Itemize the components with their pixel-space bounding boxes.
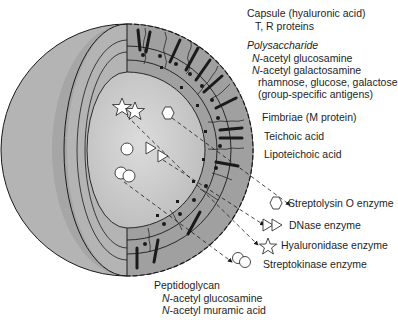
hexagon-icon — [162, 107, 174, 119]
triangles-icon — [263, 219, 273, 231]
label-enzyme-streptolysin: Streptolysin O enzyme — [288, 197, 394, 209]
label-lipoteichoic: Lipoteichoic acid — [264, 148, 342, 160]
label-poly-n-glucosamine: N-acetyl glucosamine — [252, 52, 352, 64]
triangles-icon — [272, 219, 282, 231]
italic-n: N — [162, 292, 170, 304]
circle-icon — [121, 143, 133, 155]
label-enzyme-dnase: DNase enzyme — [289, 219, 361, 231]
text: -acetyl glucosamine — [170, 292, 263, 304]
label-poly-n-galactosamine: N-acetyl galactosamine — [252, 64, 361, 76]
italic-n: N — [252, 52, 260, 64]
label-enzyme-hyaluronidase: Hyaluronidase enzyme — [281, 239, 388, 251]
circle-icon — [240, 257, 251, 268]
text: -acetyl glucosamine — [260, 52, 353, 64]
label-pep-n-muramic: N-acetyl muramic acid — [162, 304, 266, 316]
label-enzyme-streptokinase: Streptokinase enzyme — [263, 258, 367, 270]
text: -acetyl muramic acid — [170, 304, 266, 316]
label-capsule: Capsule (hyaluronic acid) — [247, 7, 365, 19]
label-fimbriae: Fimbriae (M protein) — [262, 111, 357, 123]
label-peptidoglycan: Peptidoglycan — [154, 279, 220, 291]
label-teichoic: Teichoic acid — [264, 130, 324, 142]
star-icon — [259, 238, 276, 254]
italic-n: N — [252, 64, 260, 76]
label-group-antigens: (group-specific antigens) — [258, 88, 373, 100]
hexagon-icon — [270, 197, 282, 209]
label-polysaccharide: Polysaccharide — [247, 39, 318, 51]
label-pep-n-glucosamine: N-acetyl glucosamine — [162, 292, 262, 304]
italic-n: N — [162, 304, 170, 316]
label-sugars: rhamnose, glucose, galactose — [258, 76, 398, 88]
label-tr-proteins: T, R proteins — [255, 20, 314, 32]
external-enzymes — [233, 197, 283, 268]
text: -acetyl galactosamine — [260, 64, 362, 76]
circle-icon — [123, 170, 135, 182]
